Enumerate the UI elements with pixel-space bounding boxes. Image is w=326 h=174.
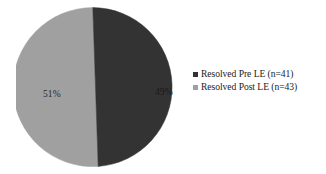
pie-slice-label-resolved-post-le: 51% bbox=[43, 90, 61, 100]
pie-chart-plot-area: 51% 49% bbox=[16, 7, 175, 167]
pie-chart-svg bbox=[16, 7, 175, 167]
pie-slice-resolved-post-le[interactable] bbox=[16, 8, 98, 167]
pie-slice-label-resolved-pre-le: 49% bbox=[155, 88, 173, 98]
legend-item-resolved-post-le[interactable]: Resolved Post LE (n=43) bbox=[193, 81, 321, 93]
pie-chart-figure: 51% 49% Resolved Pre LE (n=41) Resolved … bbox=[0, 0, 326, 174]
square-marker-icon bbox=[193, 85, 198, 90]
chart-legend: Resolved Pre LE (n=41) Resolved Post LE … bbox=[193, 68, 321, 94]
legend-item-resolved-pre-le[interactable]: Resolved Pre LE (n=41) bbox=[193, 68, 321, 80]
legend-item-label: Resolved Pre LE (n=41) bbox=[201, 68, 294, 80]
square-marker-icon bbox=[193, 72, 198, 77]
legend-item-label: Resolved Post LE (n=43) bbox=[201, 81, 297, 93]
